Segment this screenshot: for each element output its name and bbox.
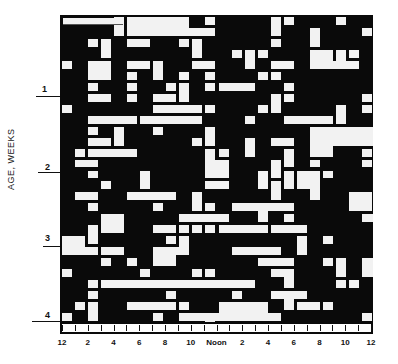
y-tick-label-2: 2 xyxy=(45,162,50,172)
wake-episode xyxy=(88,94,111,102)
wake-episode xyxy=(219,313,281,321)
wake-episode xyxy=(127,61,150,69)
wake-episode xyxy=(101,247,124,255)
wake-episode xyxy=(179,72,189,80)
wake-episode xyxy=(127,258,137,266)
wake-episode xyxy=(258,171,268,190)
wake-episode xyxy=(179,105,189,113)
wake-episode xyxy=(258,50,268,58)
y-tick-line-2 xyxy=(38,172,60,173)
y-tick-label-4: 4 xyxy=(45,310,50,320)
wake-episode xyxy=(297,236,307,255)
wake-episode xyxy=(336,258,346,266)
x-tick-label: 12 xyxy=(58,338,67,347)
wake-episode xyxy=(310,149,320,157)
wake-episode xyxy=(101,258,111,266)
wake-episode xyxy=(75,236,85,244)
wake-episode xyxy=(62,313,72,321)
wake-episode xyxy=(88,149,137,157)
wake-episode xyxy=(179,83,189,102)
wake-episode xyxy=(140,269,150,277)
wake-episode xyxy=(88,291,98,299)
x-tick-label: 10 xyxy=(186,338,195,347)
x-tick-mark xyxy=(178,325,179,331)
wake-episode xyxy=(232,50,242,58)
wake-episode xyxy=(192,61,215,69)
wake-episode xyxy=(349,280,359,288)
wake-episode xyxy=(205,225,215,233)
wake-episode xyxy=(127,28,137,36)
wake-episode xyxy=(310,181,320,200)
x-tick-mark xyxy=(229,325,230,331)
top-legend-bar xyxy=(63,18,123,25)
x-tick-label: 8 xyxy=(163,338,167,347)
x-axis-strip xyxy=(60,322,373,334)
wake-episode xyxy=(88,225,98,244)
x-tick-label: 6 xyxy=(137,338,141,347)
wake-episode xyxy=(192,39,202,58)
x-tick-mark xyxy=(307,325,308,331)
wake-episode xyxy=(101,280,150,288)
wake-episode xyxy=(232,247,281,255)
wake-episode xyxy=(271,61,294,69)
y-tick-line-4 xyxy=(32,321,60,322)
x-tick-label: 4 xyxy=(266,338,270,347)
wake-episode xyxy=(75,247,98,255)
wake-episode xyxy=(153,28,163,36)
actogram-plot-area xyxy=(60,15,373,322)
wake-episode xyxy=(114,225,124,233)
wake-episode xyxy=(153,225,176,233)
x-tick-label: 6 xyxy=(292,338,296,347)
wake-episode xyxy=(258,105,268,113)
wake-episode xyxy=(127,192,176,200)
wake-episode xyxy=(127,83,137,91)
wake-episode xyxy=(153,94,176,102)
wake-episode xyxy=(323,171,333,179)
wake-episode xyxy=(153,105,202,113)
x-tick-mark xyxy=(126,325,127,331)
wake-episode xyxy=(245,116,255,124)
wake-episode xyxy=(127,302,176,310)
wake-episode xyxy=(310,160,320,168)
wake-episode xyxy=(271,94,281,113)
wake-episode xyxy=(258,72,268,80)
wake-episode xyxy=(205,269,215,277)
wake-episode xyxy=(362,269,373,277)
wake-episode xyxy=(284,149,294,168)
wake-episode xyxy=(88,72,98,80)
x-tick-mark xyxy=(165,325,166,331)
wake-episode xyxy=(205,138,215,146)
wake-episode xyxy=(62,236,72,244)
wake-episode xyxy=(62,61,72,69)
x-tick-mark xyxy=(332,325,333,331)
wake-episode xyxy=(362,28,372,36)
wake-episode xyxy=(153,72,163,80)
x-tick-mark xyxy=(281,325,282,331)
wake-episode xyxy=(323,258,333,266)
wake-episode xyxy=(88,280,98,288)
wake-episode xyxy=(349,50,359,58)
wake-episode xyxy=(140,171,150,190)
wake-episode xyxy=(323,236,333,244)
x-tick-mark xyxy=(191,325,192,331)
wake-episode xyxy=(192,138,202,146)
wake-episode xyxy=(75,149,85,157)
wake-episode xyxy=(284,94,294,102)
wake-episode xyxy=(271,269,294,277)
y-tick-line-1 xyxy=(36,96,60,97)
wake-episode xyxy=(166,291,176,299)
wake-episode xyxy=(205,181,215,189)
wake-episode xyxy=(271,17,281,36)
wake-episode xyxy=(219,83,255,91)
wake-episode xyxy=(153,247,176,266)
wake-episode xyxy=(258,258,294,266)
x-tick-mark xyxy=(152,325,153,331)
wake-episode xyxy=(192,192,202,211)
wake-episode xyxy=(284,171,294,190)
wake-episode xyxy=(179,225,189,233)
wake-episode xyxy=(336,116,346,124)
wake-episode xyxy=(271,160,281,179)
wake-episode xyxy=(62,105,72,113)
wake-episode xyxy=(245,138,255,146)
wake-episode xyxy=(362,94,372,102)
